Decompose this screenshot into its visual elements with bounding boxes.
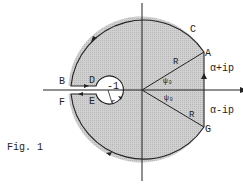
label-alpha-plus: α+ip [210,63,234,74]
label-B: B [59,76,65,87]
label-G: G [205,124,211,135]
contour-diagram: C A G B F D E -1 r R R ψ₀ ψ₀ α+ip α-ip [0,0,243,191]
label-D: D [89,75,95,86]
label-F: F [59,97,65,108]
label-minus-one: -1 [107,81,119,92]
label-E: E [89,96,95,107]
label-psi-upper: ψ₀ [163,76,173,85]
axis-arrow-icon [240,87,243,93]
label-alpha-minus: α-ip [210,105,234,116]
label-r: r [111,97,116,106]
label-A: A [205,48,211,59]
label-R-lower: R [189,110,195,120]
label-psi-lower: ψ₀ [164,93,174,102]
label-R-upper: R [173,57,179,67]
figure-caption: Fig. 1 [7,142,43,153]
label-C: C [190,24,196,35]
